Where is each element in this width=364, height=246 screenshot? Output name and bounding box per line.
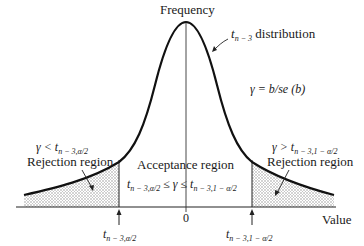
acceptance-lower-sub: n − 3,α/2 xyxy=(130,184,160,193)
t-distribution-diagram: Frequency tn − 3 distribution γ = b/se (… xyxy=(0,0,364,246)
statistic-formula: γ = b/se (b) xyxy=(250,83,305,95)
left-critical-sub: n − 3,α/2 xyxy=(106,234,136,243)
arrowhead-icon xyxy=(250,209,255,215)
right-critical-sub: n − 3,1 − α/2 xyxy=(229,234,272,243)
x-axis-label: Value xyxy=(322,213,352,226)
right-region-condition: γ > tn − 3,1 − α/2 xyxy=(272,141,337,153)
zero-tick-label: 0 xyxy=(183,212,189,224)
curve-label-arrow xyxy=(214,39,228,50)
curve-label-sub: n − 3 xyxy=(235,34,252,43)
acceptance-upper-sub: n − 3,1 − α/2 xyxy=(193,184,236,193)
left-region-condition: γ < tn − 3,α/2 xyxy=(36,141,88,153)
right-critical-label: tn − 3,1 − α/2 xyxy=(226,228,273,240)
curve-label: tn − 3 distribution xyxy=(231,27,315,40)
curve-label-suffix: distribution xyxy=(252,26,315,41)
left-condition-text: γ < t xyxy=(36,140,58,154)
right-rejection-label: Rejection region xyxy=(267,155,353,168)
right-condition-text: γ > t xyxy=(272,140,294,154)
acceptance-region-condition: tn − 3,α/2 ≤ γ ≤ tn − 3,1 − α/2 xyxy=(127,178,237,190)
acceptance-middle: ≤ γ ≤ xyxy=(160,177,190,191)
arrowhead-icon xyxy=(117,209,122,215)
arrowhead-icon xyxy=(212,46,217,52)
left-rejection-label: Rejection region xyxy=(27,155,113,168)
acceptance-region-label: Acceptance region xyxy=(137,158,234,171)
y-axis-label: Frequency xyxy=(160,3,215,16)
left-critical-label: tn − 3,α/2 xyxy=(103,228,136,240)
